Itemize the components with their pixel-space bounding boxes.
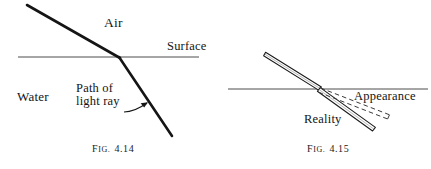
label-path-of-light-ray: Path of light ray (76, 82, 120, 108)
label-appearance: Appearance (354, 90, 416, 103)
caption-fig-word-right: FIG. (307, 143, 325, 154)
caption-number-left: 4.14 (114, 143, 134, 154)
label-path-line-2: light ray (76, 95, 120, 108)
caption-fig-4-15: FIG.4.15 (307, 143, 349, 154)
figure-page: Air Surface Water Path of light ray Appe… (0, 0, 431, 169)
caption-number-right: 4.15 (329, 143, 349, 154)
incident-ray-line (27, 5, 120, 58)
label-reality: Reality (304, 113, 342, 126)
stick-above-water (264, 52, 322, 90)
caption-fig-smallcaps-right: IG. (313, 145, 325, 154)
caption-fig-4-14: FIG.4.14 (92, 143, 134, 154)
figures-canvas (0, 0, 431, 169)
refracted-ray-line (119, 57, 172, 136)
caption-fig-word-left: FIG. (92, 143, 110, 154)
label-surface: Surface (167, 40, 207, 53)
label-air: Air (104, 16, 123, 30)
label-water: Water (17, 90, 49, 104)
caption-fig-smallcaps-left: IG. (98, 145, 110, 154)
